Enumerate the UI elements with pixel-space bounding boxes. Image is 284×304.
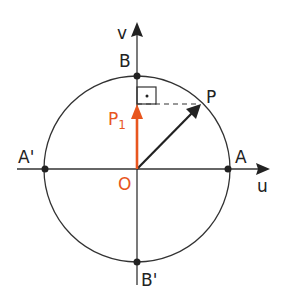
point-B [134,73,141,80]
vector-OP1-arrow-icon [131,104,143,119]
point-B-prime [134,259,141,266]
label-B: B [119,51,131,71]
label-A: A [235,147,247,167]
label-P1: P1 [108,109,126,132]
right-angle-dot [146,95,149,98]
unit-circle-diagram: v B P P1 A' A O u B' [0,0,284,304]
point-A [225,166,232,173]
label-P: P [206,87,216,107]
vector-OP [137,111,194,169]
label-u: u [257,176,268,196]
label-B-prime: B' [141,270,157,290]
v-axis-arrow-icon [131,22,143,37]
u-axis-arrow-icon [256,163,270,175]
label-A-prime: A' [18,147,34,167]
point-A-prime [42,166,49,173]
label-v: v [117,23,127,43]
label-O: O [118,174,131,194]
